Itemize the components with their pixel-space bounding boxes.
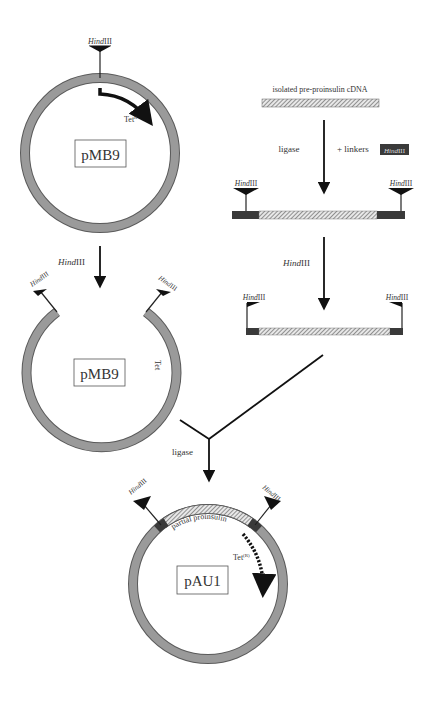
plasmid-name: pMB9 xyxy=(81,147,119,163)
ligase-label: ligase xyxy=(279,144,300,154)
plasmid-pmb9-intact: HindIII TetR pMB9 xyxy=(25,37,175,228)
tet-gene-arrow xyxy=(243,534,263,593)
plasmid-pmb9-open: HindIII HindIII Tet pMB9 xyxy=(26,270,179,448)
step-digest-plasmid: HindIII xyxy=(57,246,100,286)
enzyme-label: Hind xyxy=(57,257,77,267)
svg-text:HindIII: HindIII xyxy=(385,293,409,302)
svg-text:HindIII: HindIII xyxy=(383,147,406,155)
svg-text:HindIII: HindIII xyxy=(87,37,112,46)
cdna-fragment: isolated pre-proinsulin cDNA xyxy=(262,85,379,107)
ligase-label: ligase xyxy=(172,447,193,457)
svg-text:TetR: TetR xyxy=(124,115,138,124)
cdna-with-linkers: HindIII HindIII xyxy=(232,179,414,219)
svg-text:HindIII: HindIII xyxy=(389,179,413,188)
svg-text:HindIII: HindIII xyxy=(242,293,266,302)
hindiii-left-end: HindIII xyxy=(28,270,57,312)
tet-label: Tet xyxy=(153,360,162,371)
svg-text:HindIII: HindIII xyxy=(126,476,149,497)
plasmid-name: pMB9 xyxy=(80,366,118,382)
hindiii-label: Hind xyxy=(87,37,105,46)
svg-text:HindIII: HindIII xyxy=(57,257,85,267)
merge-junction: ligase xyxy=(172,355,323,480)
cdna-label: isolated pre-proinsulin cDNA xyxy=(272,85,367,94)
hindiii-site-marker: HindIII xyxy=(87,37,112,78)
cdna-sticky-ends: HindIII HindIII xyxy=(242,293,409,335)
svg-text:HindIII: HindIII xyxy=(234,179,258,188)
linkers-label: + linkers xyxy=(337,144,369,154)
step-digest-cdna: HindIII xyxy=(282,237,324,308)
svg-text:Tet(R): Tet(R) xyxy=(233,553,250,562)
svg-text:HindIII: HindIII xyxy=(282,258,310,268)
plasmid-name: pAU1 xyxy=(184,573,221,589)
cloning-diagram: HindIII TetR pMB9 HindIII HindIII xyxy=(0,0,440,701)
svg-text:HindIII: HindIII xyxy=(28,270,51,290)
hindiii-right-end: HindIII xyxy=(146,274,179,312)
plasmid-pau1: HindIII HindIII partial proinsulin Tet(R… xyxy=(126,476,283,659)
